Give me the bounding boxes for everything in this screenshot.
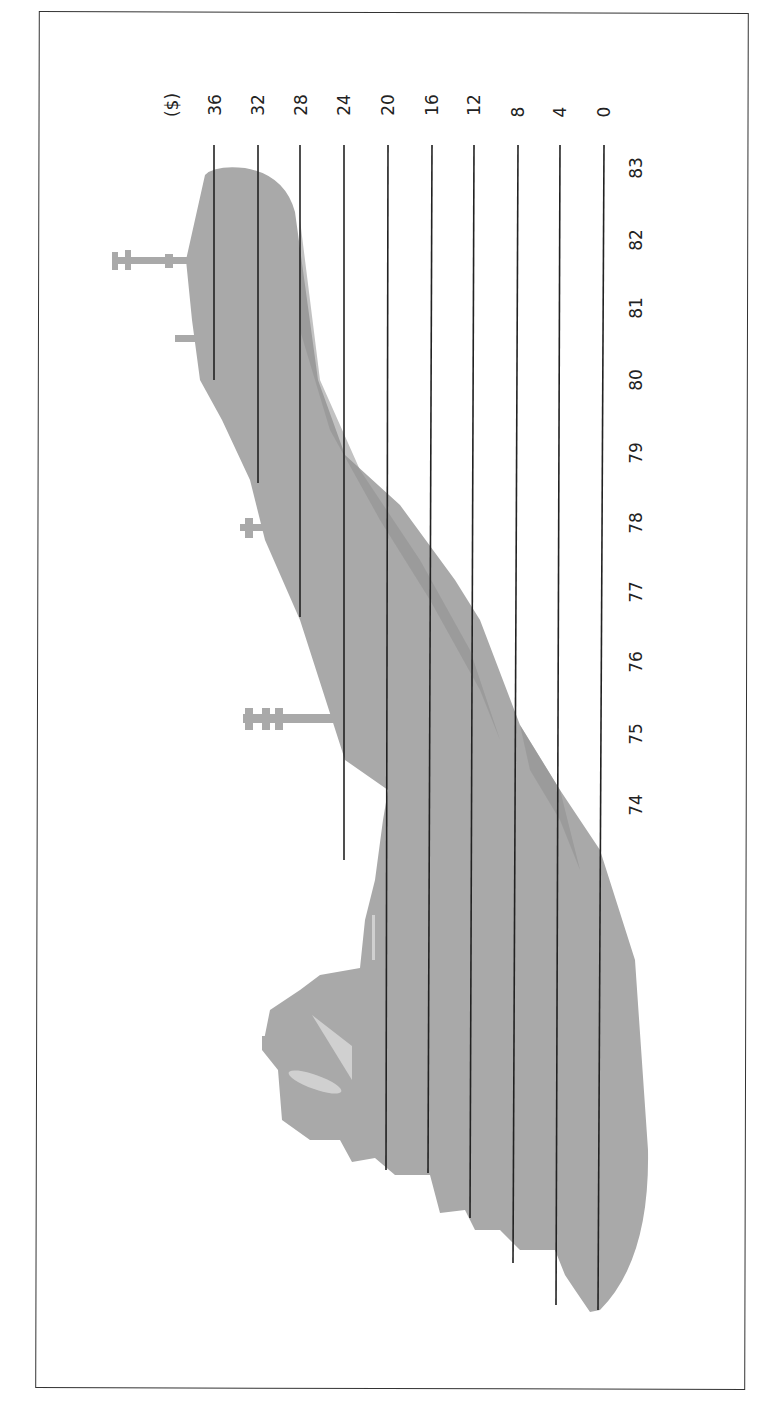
x-tick-77: 77 — [626, 581, 646, 603]
y-axis-unit-label: ($) — [162, 93, 182, 117]
mast-78 — [240, 524, 270, 531]
mast-81 — [175, 335, 197, 342]
y-tick-0: 0 — [594, 107, 614, 118]
mast-75 — [243, 714, 335, 723]
x-tick-83: 83 — [626, 157, 646, 179]
y-tick-36: 36 — [205, 94, 225, 116]
x-tick-79: 79 — [626, 442, 646, 464]
x-tick-75: 75 — [626, 723, 646, 745]
x-tick-80: 80 — [626, 369, 646, 391]
tanker-silhouette — [112, 167, 648, 1312]
y-tick-12: 12 — [464, 94, 484, 116]
y-tick-24: 24 — [334, 94, 354, 116]
y-tick-32: 32 — [248, 94, 268, 116]
y-tick-20: 20 — [378, 94, 398, 116]
x-tick-78: 78 — [626, 512, 646, 534]
x-tick-82: 82 — [626, 229, 646, 251]
y-tick-28: 28 — [291, 94, 311, 116]
y-tick-8: 8 — [508, 107, 528, 118]
x-tick-74: 74 — [626, 794, 646, 816]
y-tick-16: 16 — [422, 94, 442, 116]
x-tick-81: 81 — [626, 297, 646, 319]
x-tick-76: 76 — [626, 651, 646, 673]
y-tick-4: 4 — [550, 107, 570, 118]
oil-tanker-chart — [0, 0, 765, 1401]
mast-82 — [112, 257, 192, 264]
